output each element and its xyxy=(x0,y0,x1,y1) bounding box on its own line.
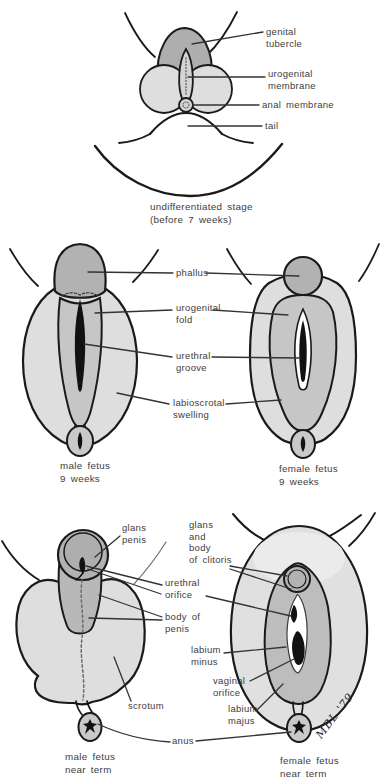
caption-male-near-term: male fetus near term xyxy=(65,751,115,776)
label-line: glans xyxy=(189,519,232,531)
caption-line: female fetus xyxy=(280,755,339,768)
label-line: penis xyxy=(165,623,200,635)
anal-membrane-shape xyxy=(179,98,193,112)
label-line: genital xyxy=(266,26,302,38)
label-line: urethral xyxy=(165,577,200,589)
label-vaginal-orifice: vaginal orifice xyxy=(213,675,245,698)
label-line: penis xyxy=(122,534,146,546)
label-labium-majus: labium majus xyxy=(228,703,258,726)
label-line: phallus xyxy=(176,267,208,279)
label-anus: anus xyxy=(172,735,194,747)
male9-phallus xyxy=(54,244,105,298)
caption-line: near term xyxy=(280,768,339,781)
label-phallus: phallus xyxy=(176,267,208,279)
label-line: swelling xyxy=(173,409,225,421)
label-line: orifice xyxy=(213,687,245,699)
label-line: urogenital xyxy=(176,302,221,314)
maleNT-thigh-left xyxy=(2,541,39,580)
tail-mound xyxy=(150,113,222,134)
label-line: tubercle xyxy=(266,38,302,50)
label-glans-penis: glans penis xyxy=(122,522,146,545)
label-line: majus xyxy=(228,715,258,727)
thigh-crease-left xyxy=(125,13,155,57)
label-urogenital-membrane: urogenital membrane xyxy=(268,68,316,91)
caption-line: male fetus xyxy=(65,751,115,764)
thigh-crease-right xyxy=(207,12,237,55)
label-urethral-orifice: urethral orifice xyxy=(165,577,200,600)
caption-line: male fetus xyxy=(60,460,110,473)
label-labium-minus: labium minus xyxy=(191,644,221,667)
label-line: anus xyxy=(172,735,194,747)
label-line: glans xyxy=(122,522,146,534)
caption-line: undifferentiated stage xyxy=(150,201,253,214)
label-body-of-penis: body of penis xyxy=(165,611,200,634)
label-tail: tail xyxy=(265,120,278,132)
label-line: labium xyxy=(191,644,221,656)
femaleNT-clitoris-inner xyxy=(288,570,306,588)
label-labioscrotal-swelling: labioscrotal swelling xyxy=(173,397,225,420)
label-line: vaginal xyxy=(213,675,245,687)
tail-flick-right xyxy=(222,134,253,143)
label-line: anal membrane xyxy=(262,99,334,111)
label-line: minus xyxy=(191,656,221,668)
female9-thigh-right xyxy=(359,244,379,281)
label-line: and xyxy=(189,531,232,543)
label-line: groove xyxy=(176,362,211,374)
male9-thigh-left xyxy=(10,249,38,286)
label-line: fold xyxy=(176,314,221,326)
label-anal-membrane: anal membrane xyxy=(262,99,334,111)
genital-development-diagram: genital tubercle urogenital membrane ana… xyxy=(0,0,387,783)
label-line: urogenital xyxy=(268,68,316,80)
caption-line: near term xyxy=(65,764,115,777)
caption-line: 9 weeks xyxy=(60,473,110,486)
label-genital-tubercle: genital tubercle xyxy=(266,26,302,49)
label-line: orifice xyxy=(165,589,200,601)
label-urogenital-fold: urogenital fold xyxy=(176,302,221,325)
label-line: of clitoris xyxy=(189,554,232,566)
label-line: scrotum xyxy=(128,700,164,712)
caption-undifferentiated-stage: undifferentiated stage (before 7 weeks) xyxy=(150,201,253,226)
label-line: body of xyxy=(165,611,200,623)
caption-line: 9 weeks xyxy=(279,476,338,489)
label-line: membrane xyxy=(268,80,316,92)
maleNT-thigh-right xyxy=(134,542,166,584)
label-line: urethral xyxy=(176,350,211,362)
caption-female-9-weeks: female fetus 9 weeks xyxy=(279,463,338,488)
undifferentiated-figure xyxy=(95,12,282,196)
label-glans-body-clitoris: glans and body of clitoris xyxy=(189,519,232,565)
label-line: tail xyxy=(265,120,278,132)
label-scrotum: scrotum xyxy=(128,700,164,712)
label-line: labium xyxy=(228,703,258,715)
female9-thigh-left xyxy=(227,249,251,284)
label-urethral-groove: urethral groove xyxy=(176,350,211,373)
femaleNT-thigh-right xyxy=(349,513,375,546)
label-line: body xyxy=(189,542,232,554)
caption-line: female fetus xyxy=(279,463,338,476)
body-contour-curve xyxy=(95,144,282,196)
label-line: labioscrotal xyxy=(173,397,225,409)
caption-male-9-weeks: male fetus 9 weeks xyxy=(60,460,110,485)
caption-female-near-term: female fetus near term xyxy=(280,755,339,780)
tail-flick-left xyxy=(119,134,150,143)
male9-thigh-right xyxy=(133,250,158,282)
caption-line: (before 7 weeks) xyxy=(150,214,253,227)
